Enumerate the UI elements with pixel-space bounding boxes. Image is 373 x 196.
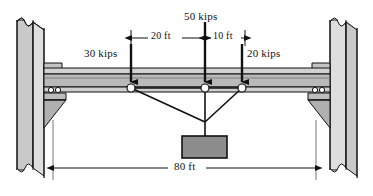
load-label-30kips: 30 kips <box>84 47 118 59</box>
pin-node-icon-center <box>201 84 209 92</box>
load-label-50kips: 50 kips <box>184 10 218 22</box>
dimension-label-20ft: 20 ft <box>151 30 171 41</box>
beam-load-diagram: 50 kips 30 kips 20 kips 20 ft 10 ft 80 f… <box>0 0 373 196</box>
pin-node-icon-right <box>238 84 246 92</box>
cable-stay-assembly <box>131 88 242 137</box>
dimension-label-10ft: 10 ft <box>213 30 233 41</box>
left-column <box>14 0 48 196</box>
right-column <box>330 0 357 196</box>
suspended-load-block <box>182 136 227 158</box>
load-label-20kips: 20 kips <box>247 47 281 59</box>
pin-node-icon-left <box>127 84 135 92</box>
dimension-label-80ft: 80 ft <box>172 160 197 172</box>
